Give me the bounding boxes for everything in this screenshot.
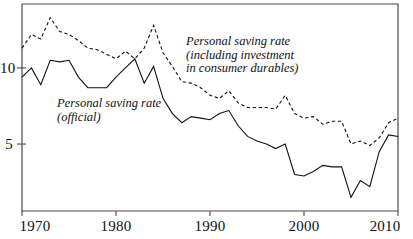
annotation-official-line-1: Personal saving rate [57,97,161,111]
x-axis-tick-marks [22,211,398,216]
annotation-durables-line-1: Personal saving rate [186,35,299,49]
y-tick-label: 10 [0,59,13,76]
x-tick-label: 1980 [101,218,132,235]
annotation-personal-saving-rate-including-durables: Personal saving rate (including investme… [186,35,299,76]
y-tick-label: 5 [0,136,13,153]
annotation-official-line-2: (official) [57,111,161,125]
annotation-durables-line-2: (including investment [186,49,299,63]
x-tick-label: 2000 [289,218,320,235]
x-tick-label: 2010 [370,218,401,235]
annotation-durables-line-3: in consumer durables) [186,62,299,76]
x-tick-label: 1970 [20,218,51,235]
series-line-official [22,59,398,198]
annotation-personal-saving-rate-official: Personal saving rate (official) [57,97,161,124]
x-tick-label: 1990 [195,218,226,235]
chart-figure: 19701980199020002010 510 Personal saving… [0,0,413,239]
